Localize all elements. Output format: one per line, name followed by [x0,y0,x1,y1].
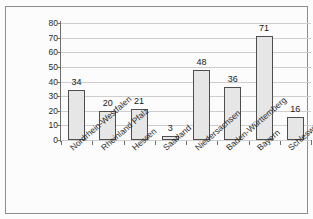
bar-value-label: 3 [168,123,173,133]
scan-artifact-text [6,0,22,5]
bar-value-label: 36 [228,74,238,84]
gridline [61,96,311,97]
bar-value-label: 71 [259,23,269,33]
gridline [61,23,311,24]
x-axis-tick-mark [249,141,250,145]
y-axis-tick-mark [57,23,61,24]
x-axis-tick-mark [217,141,218,145]
gridline [61,82,311,83]
bar[interactable] [193,70,210,140]
y-axis-tick-labels: 80706050403020100 [34,23,58,140]
y-axis-tick-mark [57,96,61,97]
bar-value-label: 34 [72,77,82,87]
x-axis-tick-mark [124,141,125,145]
y-axis-tick-mark [57,82,61,83]
x-axis-tick-mark [61,141,62,145]
gridline [61,38,311,39]
x-axis-tick-mark [186,141,187,145]
gridline [61,67,311,68]
x-axis-tick-mark [280,141,281,145]
y-axis-tick-mark [57,67,61,68]
y-axis-tick-mark [57,111,61,112]
gridline [61,52,311,53]
bar-value-label: 48 [197,57,207,67]
y-axis-tick-mark [57,38,61,39]
chart-frame: 80706050403020100 342021348367116 Nordrh… [5,6,308,214]
x-axis-tick-mark [155,141,156,145]
x-axis-tick-mark [311,141,312,145]
bar-value-label: 16 [290,104,300,114]
y-axis-tick-mark [57,52,61,53]
x-axis-tick-mark [92,141,93,145]
bar-value-label: 21 [134,96,144,106]
y-axis-tick-mark [57,125,61,126]
